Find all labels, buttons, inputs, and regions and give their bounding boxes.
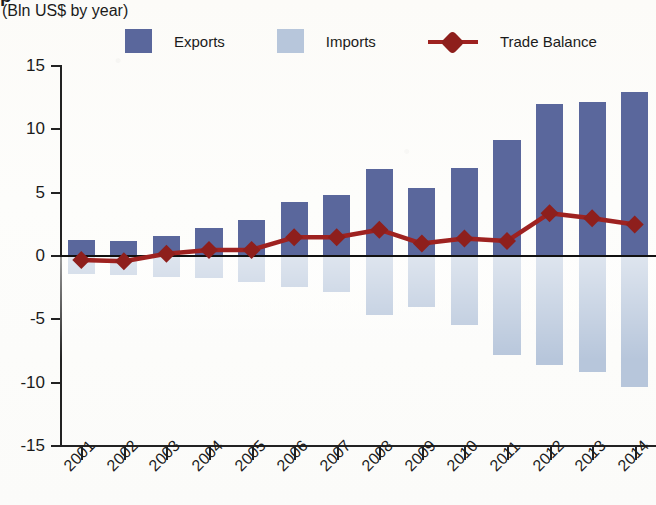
trade-balance-marker[interactable]: [626, 216, 644, 234]
legend-label-imports: Imports: [326, 33, 376, 50]
legend-label-trade-balance: Trade Balance: [500, 33, 597, 50]
trade-balance-marker[interactable]: [200, 241, 218, 259]
trade-balance-marker[interactable]: [583, 209, 601, 227]
y-tick-label: -5: [30, 310, 45, 327]
legend-swatch-exports: [125, 29, 152, 53]
legend-marker-trade-balance: [428, 33, 478, 49]
trade-balance-marker[interactable]: [285, 228, 303, 246]
legend-item-imports[interactable]: Imports: [277, 29, 376, 53]
trade-balance-marker[interactable]: [115, 252, 133, 270]
legend-label-exports: Exports: [174, 33, 225, 50]
chart-legend: Exports Imports Trade Balance: [125, 29, 597, 53]
x-axis-labels: 2001200220032004200520062007200820092010…: [0, 445, 656, 505]
chart-subtitle: (Bln US$ by year): [2, 1, 128, 21]
trade-balance-marker[interactable]: [413, 235, 431, 253]
trade-balance-marker[interactable]: [328, 228, 346, 246]
trade-balance-marker[interactable]: [157, 245, 175, 263]
y-tick-label: 0: [36, 247, 45, 264]
y-tick-label: 10: [26, 120, 45, 137]
y-tick-label: 5: [36, 184, 45, 201]
trade-balance-marker[interactable]: [243, 241, 261, 259]
legend-item-trade-balance[interactable]: Trade Balance: [428, 33, 597, 50]
trade-balance-marker[interactable]: [370, 221, 388, 239]
trade-balance-marker[interactable]: [72, 251, 90, 269]
legend-item-exports[interactable]: Exports: [125, 29, 225, 53]
plot-area: [60, 65, 656, 445]
legend-swatch-imports: [277, 29, 304, 53]
y-tick-label: -10: [20, 374, 45, 391]
y-tick-label: 15: [26, 57, 45, 74]
y-axis-labels: 151050-5-10-15: [0, 65, 60, 445]
trade-balance-line: [60, 65, 656, 445]
trade-balance-marker[interactable]: [455, 230, 473, 248]
